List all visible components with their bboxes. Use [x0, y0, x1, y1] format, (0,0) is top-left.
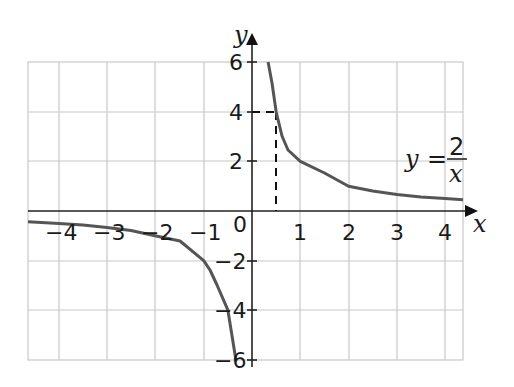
x-tick-label: −4 [45, 220, 77, 245]
x-tick-label: 1 [293, 220, 307, 245]
axes [28, 42, 470, 367]
y-tick-label: 2 [229, 149, 243, 174]
y-tick-label: 6 [229, 50, 243, 75]
curve-positive-branch [268, 62, 463, 200]
y-tick-label: 4 [229, 100, 243, 125]
y-tick-label: −6 [214, 348, 246, 373]
y-tick-label: −4 [214, 298, 246, 323]
equation-label: y = 2 x [404, 133, 467, 188]
y-axis-label: y [233, 21, 248, 49]
y-axis-arrow-icon [246, 33, 258, 45]
hyperbola-chart: −4 −3 −2 −1 1 2 3 4 0 6 4 2 −2 −4 −6 y x… [0, 0, 514, 387]
x-tick-label: −2 [141, 220, 173, 245]
x-tick-labels: −4 −3 −2 −1 1 2 3 4 [45, 220, 452, 245]
x-tick-label: 3 [390, 220, 404, 245]
x-tick-label: 4 [438, 220, 452, 245]
equation-lhs: y [404, 145, 419, 173]
origin-label: 0 [233, 212, 247, 237]
x-axis-label: x [473, 210, 487, 238]
equation-equals: = [427, 145, 447, 173]
equation-denominator: x [449, 160, 463, 188]
x-tick-label: −3 [93, 220, 125, 245]
y-tick-label: −2 [214, 249, 246, 274]
x-tick-label: 2 [342, 220, 356, 245]
equation-numerator: 2 [449, 133, 464, 161]
x-tick-label: −1 [189, 220, 221, 245]
